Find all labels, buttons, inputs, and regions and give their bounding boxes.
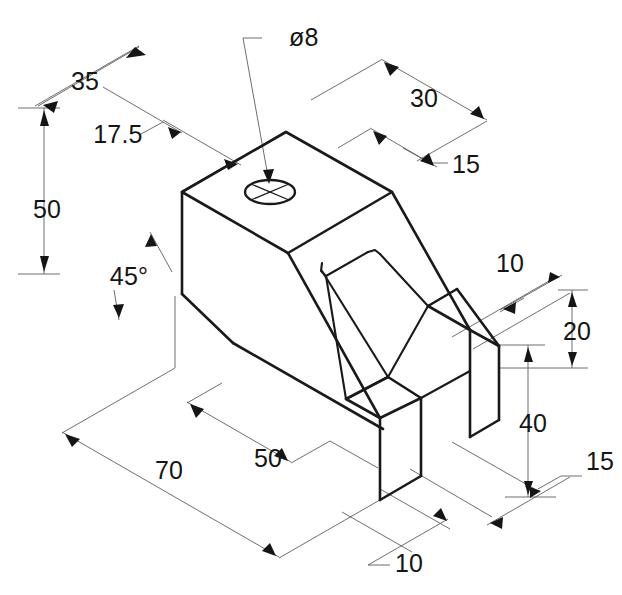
ext-line-50-bottom-start xyxy=(187,383,222,403)
left-chamfer-edge xyxy=(182,294,233,343)
front-slope-center-edge xyxy=(288,253,380,418)
arrowhead-30-left xyxy=(384,62,399,76)
dimension-label-15-right: 15 xyxy=(586,447,614,475)
dimension-label-hole-diameter: ø8 xyxy=(289,23,319,51)
dimension-label-40: 40 xyxy=(519,409,547,437)
dimension-label-15-top: 15 xyxy=(452,150,480,178)
arrowhead-15-top-left xyxy=(373,131,387,145)
bottom-front-left-edge xyxy=(233,343,383,429)
dimension-label-30: 30 xyxy=(410,84,438,112)
slot-right-wall-outer xyxy=(380,254,428,306)
left-prong-bottom-edge xyxy=(380,476,421,500)
arrowhead-45-lower xyxy=(113,304,124,318)
dimension-label-50-length: 50 xyxy=(254,444,282,472)
dim-line-17-5 xyxy=(163,120,241,165)
arrowhead-35-left xyxy=(43,101,58,113)
dimension-label-20: 20 xyxy=(563,317,591,345)
arrowhead-50-bottom-left xyxy=(190,404,204,418)
arrowhead-45-upper xyxy=(145,234,157,247)
part-geometry-group xyxy=(182,132,499,500)
dimension-label-70: 70 xyxy=(155,456,183,484)
arrowhead-70-left xyxy=(65,434,80,447)
ext-line-30-start xyxy=(311,60,381,100)
arrowhead-hole xyxy=(263,169,274,184)
ext-line-15-right-b xyxy=(410,469,492,517)
technical-drawing-canvas: 35 17.5 50 45° ø8 30 15 10 20 40 15 70 5… xyxy=(0,0,622,595)
right-prong-bottom-edge xyxy=(470,420,499,437)
arrowhead-50-top xyxy=(40,110,49,126)
top-face xyxy=(182,132,392,253)
dimension-label-45-degree: 45° xyxy=(110,262,148,290)
arrowhead-50-bottom xyxy=(40,256,49,272)
leader-45-upper xyxy=(150,232,172,272)
leader-17-5 xyxy=(141,122,163,134)
left-prong-top-front xyxy=(380,398,421,418)
dimension-label-50-height: 50 xyxy=(33,195,61,223)
dim-line-70 xyxy=(62,432,279,557)
dimension-label-10-right: 10 xyxy=(496,249,524,277)
slot-left-wall-outer xyxy=(322,271,388,377)
dimension-label-17-5: 17.5 xyxy=(93,120,142,148)
arrowhead-20-top xyxy=(568,292,577,307)
isometric-part-drawing: 35 17.5 50 45° ø8 30 15 10 20 40 15 70 5… xyxy=(0,0,622,595)
slot-inner-back-edge xyxy=(388,306,428,377)
dimension-labels-group: 35 17.5 50 45° ø8 30 15 10 20 40 15 70 5… xyxy=(33,23,614,577)
arrowhead-15-top-right xyxy=(420,153,434,166)
arrowhead-15-right-a xyxy=(490,517,503,529)
arrowhead-40-top xyxy=(524,347,533,362)
arrowhead-30-right xyxy=(470,106,484,119)
ext-line-70-start xyxy=(62,368,175,433)
ext-line-70-end xyxy=(279,493,392,558)
slot-rounded-top-right xyxy=(368,250,380,254)
slot-bottom-connector xyxy=(421,371,470,398)
ext-line-15-top xyxy=(338,129,370,148)
arrowhead-20-bottom xyxy=(568,352,577,366)
ext-line-50-bottom-end xyxy=(291,441,378,468)
leader-hole-diameter xyxy=(243,38,269,182)
ext-line-10-bottom-b xyxy=(342,512,412,552)
arrowhead-10-bottom xyxy=(433,508,447,521)
slot-rounded-top-left xyxy=(321,252,368,276)
arrowhead-10-right-b xyxy=(548,272,560,283)
arrowhead-70-right xyxy=(262,543,276,556)
dimension-lines-group xyxy=(18,38,588,565)
dimension-label-35: 35 xyxy=(71,67,99,95)
dimension-label-10-bottom: 10 xyxy=(395,549,423,577)
right-body-edge xyxy=(392,192,470,330)
left-prong-top-right xyxy=(388,377,421,398)
hole-group xyxy=(245,180,295,204)
